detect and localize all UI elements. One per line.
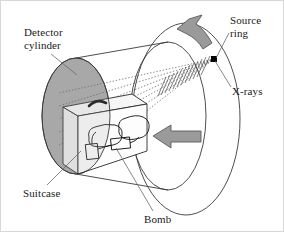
label-detector-cylinder: Detectorcylinder <box>24 26 63 51</box>
label-detector-cylinder-line2: cylinder <box>24 39 61 51</box>
label-detector-cylinder-line1: Detector <box>24 26 63 38</box>
detector-disk-shading <box>42 58 110 174</box>
label-source-ring: Sourcering <box>230 14 261 39</box>
xray-scanner-figure: Detectorcylinder Sourcering X-rays Suitc… <box>0 0 284 232</box>
leader-bomb <box>116 148 153 211</box>
leader-xrays <box>215 61 231 87</box>
leader-source-ring <box>216 33 229 58</box>
label-suitcase: Suitcase <box>23 187 60 200</box>
label-source-ring-line2: ring <box>230 27 248 39</box>
translation-arrow <box>153 125 201 148</box>
source-point-dot <box>211 56 217 62</box>
label-source-ring-line1: Source <box>230 14 261 26</box>
label-xrays: X-rays <box>232 85 263 98</box>
beam-hatching <box>158 56 210 96</box>
rotation-arrow <box>177 15 212 49</box>
label-bomb: Bomb <box>144 213 171 226</box>
